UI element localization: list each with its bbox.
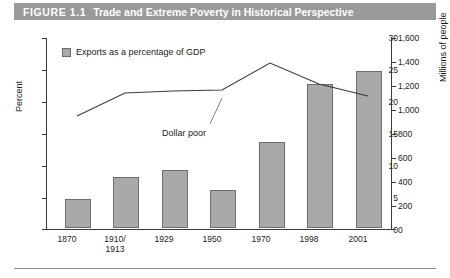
y-axis-right-tick: [392, 86, 396, 87]
bar-1910-1913: [113, 177, 139, 228]
x-axis-label-1910-1913: 1910/ 1913: [95, 234, 135, 254]
y-axis-left-tick: [42, 198, 46, 199]
x-axis-label-1929: 1929: [144, 234, 184, 244]
bar-1870: [65, 199, 91, 228]
x-axis-label-1950: 1950: [192, 234, 232, 244]
figure-number: FIGURE 1.1: [23, 6, 86, 18]
bar-2001: [356, 71, 382, 228]
legend: Exports as a percentage of GDP: [62, 47, 206, 57]
figure-header: FIGURE 1.1 Trade and Extreme Poverty in …: [14, 3, 436, 20]
bar-1998: [307, 84, 333, 228]
y-axis-right-tick-label: 1,200: [398, 82, 419, 91]
y-axis-right-tick: [392, 229, 396, 230]
chart-canvas: Percent Millions of people 30 25 20 15 1…: [0, 22, 450, 256]
x-axis-label-1870: 1870: [47, 234, 87, 244]
bar-1929: [162, 170, 188, 228]
y-axis-right-tick-label: 1,000: [398, 106, 419, 115]
y-axis-left-tick: [42, 38, 46, 39]
y-axis-right-tick: [392, 158, 396, 159]
y-axis-right-tick: [392, 38, 396, 39]
y-axis-right-tick: [392, 182, 396, 183]
y-axis-left-tick: [42, 166, 46, 167]
plot-area: [46, 38, 392, 230]
y-axis-left-tick: [42, 70, 46, 71]
y-axis-left-tick: [42, 134, 46, 135]
bar-1970: [259, 142, 285, 228]
annotation-dollar-poor: Dollar poor: [162, 128, 206, 138]
y-axis-right-tick-label: 400: [398, 178, 412, 187]
bar-1950: [210, 190, 236, 228]
y-axis-right-tick-label: 1,400: [398, 58, 419, 67]
y-axis-left-tick: [42, 102, 46, 103]
y-axis-right-tick-label: 200: [398, 202, 412, 211]
y-axis-right-tick-label: 800: [398, 130, 412, 139]
y-axis-left-title: Percent: [14, 81, 24, 112]
y-axis-right-tick: [392, 206, 396, 207]
x-axis-label-2001: 2001: [338, 234, 378, 244]
legend-swatch-exports: [62, 48, 71, 57]
y-axis-right-tick-label: 1,600: [398, 34, 419, 43]
figure-title: Trade and Extreme Poverty in Historical …: [93, 6, 353, 18]
figure-bottom-rule: [14, 268, 436, 269]
y-axis-right-tick-label: 600: [398, 154, 412, 163]
y-axis-left-tick: [42, 229, 46, 230]
y-axis-right-title: Millions of people: [438, 12, 448, 82]
x-axis-label-1998: 1998: [289, 234, 329, 244]
y-axis-right-tick: [392, 134, 396, 135]
legend-label-exports: Exports as a percentage of GDP: [76, 47, 206, 57]
x-axis-label-1970: 1970: [241, 234, 281, 244]
y-axis-right-tick: [392, 110, 396, 111]
y-axis-right-tick-label: 0: [398, 226, 403, 235]
y-axis-right-tick: [392, 62, 396, 63]
